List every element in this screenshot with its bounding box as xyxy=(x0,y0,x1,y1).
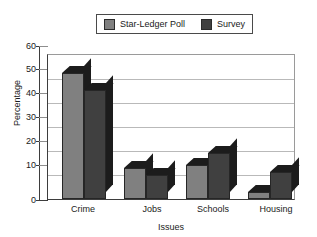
bar-front-face xyxy=(270,172,292,199)
bar-front-face xyxy=(208,153,230,199)
y-axis-title: Percentage xyxy=(12,65,22,141)
x-tick-label: Housing xyxy=(242,204,310,214)
chart-legend: Star-Ledger Poll Survey xyxy=(96,14,253,34)
bar-housing-survey xyxy=(270,172,292,199)
y-tick-label: 30 xyxy=(14,112,36,122)
plot-area xyxy=(47,54,295,200)
legend-item-star-ledger-poll: Star-Ledger Poll xyxy=(104,19,185,30)
y-tick-label: 10 xyxy=(14,160,36,170)
bar-front-face xyxy=(248,192,270,199)
bar-side-face xyxy=(292,157,299,192)
bar-side-face xyxy=(106,75,113,192)
bar-front-face xyxy=(146,175,168,199)
y-tick-label: 20 xyxy=(14,136,36,146)
bar-schools-star-ledger-poll xyxy=(186,165,208,199)
y-tick-label: 50 xyxy=(14,64,36,74)
bar-jobs-star-ledger-poll xyxy=(124,168,146,199)
x-axis-title: Issues xyxy=(47,222,295,232)
bar-side-face xyxy=(230,138,237,192)
bar-chart: Star-Ledger Poll Survey Percentage 60 50… xyxy=(0,0,317,237)
axis-wall-top-back xyxy=(39,46,48,47)
bar-front-face xyxy=(124,168,146,199)
bar-front-face xyxy=(186,165,208,199)
y-tick-label: 40 xyxy=(14,88,36,98)
bar-crime-star-ledger-poll xyxy=(62,73,84,199)
legend-swatch-icon xyxy=(104,19,115,30)
legend-item-survey: Survey xyxy=(201,19,245,30)
y-tick-label: 0 xyxy=(14,195,36,205)
y-tick-label: 60 xyxy=(14,41,36,51)
x-tick-label: Crime xyxy=(47,204,119,214)
bar-side-face xyxy=(168,160,175,192)
plot-depth-top xyxy=(47,46,295,54)
axis-wall-bottom-front xyxy=(39,200,48,201)
bar-housing-star-ledger-poll xyxy=(248,192,270,199)
bar-crime-survey xyxy=(84,90,106,199)
x-tick-label: Jobs xyxy=(122,204,182,214)
legend-label: Survey xyxy=(217,20,245,29)
bar-front-face xyxy=(84,90,106,199)
bar-schools-survey xyxy=(208,153,230,199)
x-tick-label: Schools xyxy=(180,204,246,214)
bar-front-face xyxy=(62,73,84,199)
legend-swatch-icon xyxy=(201,19,212,30)
legend-label: Star-Ledger Poll xyxy=(120,20,185,29)
bar-jobs-survey xyxy=(146,175,168,199)
